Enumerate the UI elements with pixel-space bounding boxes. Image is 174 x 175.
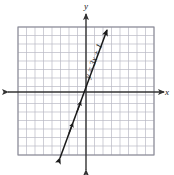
graph-figure: y = 3x + 1 x y (0, 0, 174, 175)
x-axis-label: x (164, 87, 169, 97)
coordinate-graph-svg: y = 3x + 1 x y (0, 0, 174, 175)
line-equation-label: y = 3x + 1 (82, 42, 104, 80)
y-axis-label: y (83, 1, 88, 11)
